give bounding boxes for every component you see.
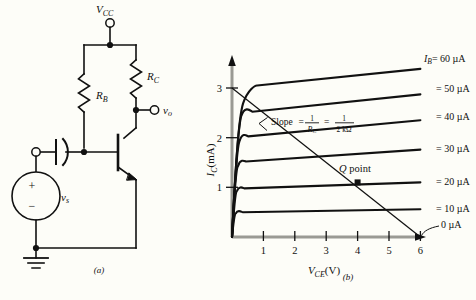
x-tick-label-3: 3 [324,245,329,256]
curve-ib-40ua [232,120,420,237]
figure-container: VCC RB RC vo vs + − (a) [0,0,476,300]
label-vcc: VCC [96,3,114,18]
curve-label-ib-10ua: = 10 µA [436,203,470,214]
characteristic-curves [232,69,420,237]
curve-label-ib-50ua: = 50 µA [436,83,470,94]
panel-a-caption: (a) [79,265,119,275]
slope-leader-lower [259,124,267,131]
y-axis-tick-labels: 1 2 3 [217,83,222,193]
slope-annotation-word: Slope [271,117,293,127]
x-axis-tick-labels: 1 2 3 4 5 6 [261,245,423,256]
characteristics-chart-svg: 1 2 3 4 5 6 1 2 3 [205,0,476,300]
resistor-rc-zigzag [131,60,142,98]
curve-label-ib-20ua: = 20 µA [436,176,470,187]
y-tick-label-3: 3 [217,83,222,94]
slope-leader-upper [259,118,268,124]
source-plus-sign: + [29,179,36,193]
slope-numerator-1: 1 [310,114,314,123]
curve-label-ib-30ua: = 30 µA [436,143,470,154]
x-tick-label-5: 5 [386,245,391,256]
slope-denominator-2: 2 kΩ [337,125,352,134]
panel-b-caption: (b) [328,272,368,282]
zero-ua-leader-arrow [422,226,440,236]
junction-dots [33,42,139,251]
dc-load-line [232,88,420,237]
emitter-arrow [127,173,137,180]
vcc-terminal-node [106,19,114,27]
curve-ib-50ua [232,94,420,237]
x-tick-label-6: 6 [418,245,423,256]
resistor-rb-zigzag [79,74,90,112]
label-rc: RC [146,70,160,85]
label-rb: RB [95,89,108,104]
panel-a-circuit-schematic: VCC RB RC vo vs + − (a) [0,0,212,300]
source-minus-sign: − [29,199,36,213]
slope-equals-2: = [324,117,329,127]
x-tick-label-4: 4 [355,245,361,256]
y-tick-label-1: 1 [217,182,222,193]
x-tick-label-1: 1 [261,245,266,256]
curve-labels: IB= 60 µA = 50 µA = 40 µA = 30 µA = 20 µ… [423,53,470,230]
collector-lead-diag [124,128,136,138]
label-vo: vo [163,104,172,118]
vo-terminal-node [150,106,158,114]
junction-dot-ground [33,245,39,251]
y-axis-title: IC(mA) [204,143,219,177]
x-tick-label-2: 2 [292,245,297,256]
slope-numerator-2: 1 [342,114,346,123]
input-terminal-node [32,148,40,156]
slope-denominator-1: RC [307,125,318,135]
label-vs: vs [61,191,69,205]
curve-label-ib-40ua: = 40 µA [436,111,470,122]
junction-dot-vcc-rail [107,42,113,48]
junction-dot-output [133,107,139,113]
curve-label-ib-0ua: 0 µA [441,219,462,230]
panel-b-output-characteristics: 1 2 3 4 5 6 1 2 3 [205,0,476,300]
curve-label-ib-60ua: IB= 60 µA [423,53,466,66]
y-axis-arrow [228,55,236,66]
junction-dot-base [81,149,87,155]
ac-source-vs-circle [12,172,60,220]
circuit-svg: VCC RB RC vo vs + − [0,0,212,300]
q-point-label: Q point [339,163,371,174]
q-point-marker [355,179,361,185]
slope-equals-1: = [299,117,304,127]
y-tick-label-2: 2 [217,133,222,144]
